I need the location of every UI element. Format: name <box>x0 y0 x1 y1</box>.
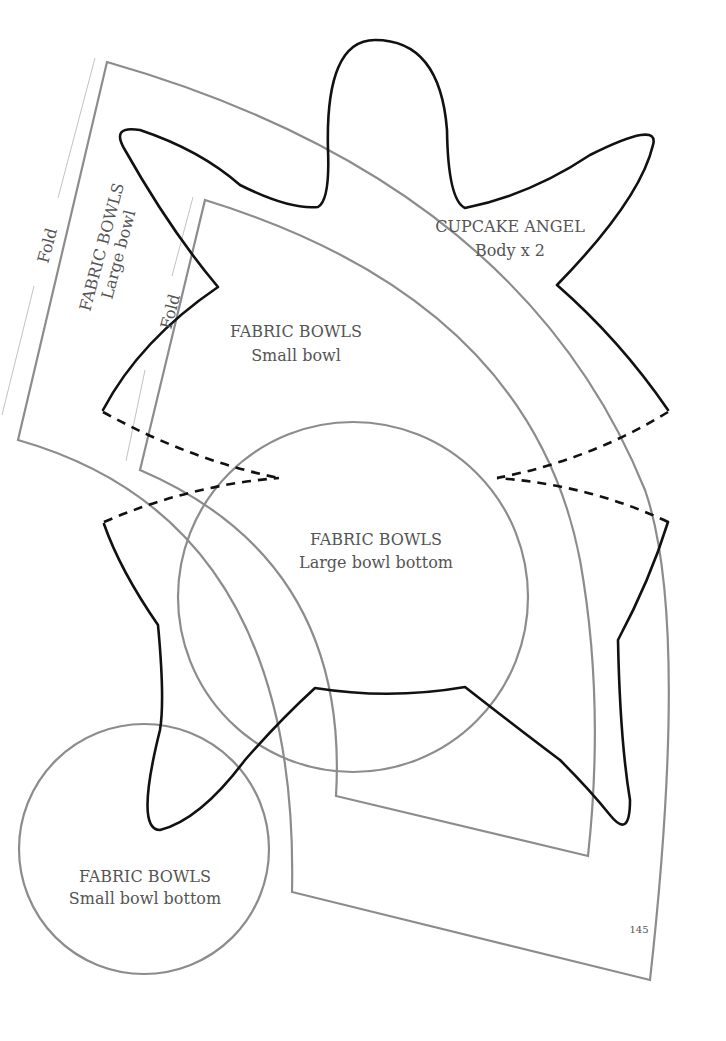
small-bowl-bottom-outline <box>19 724 269 974</box>
large-bowl-fold-line-upper <box>58 58 95 198</box>
cupcake-angel-subtitle: Body x 2 <box>475 241 545 260</box>
angel-dashed-right-upper <box>497 412 668 478</box>
cupcake-angel-title: CUPCAKE ANGEL <box>435 217 585 236</box>
small-bowl-outline <box>140 200 595 856</box>
page-number: 145 <box>629 924 648 935</box>
small-bowl-fold-line-lower <box>126 370 145 461</box>
angel-dashed-left-lower <box>104 478 279 522</box>
small-bowl-bottom-subtitle: Small bowl bottom <box>69 889 221 908</box>
small-bowl-bottom-title: FABRIC BOWLS <box>79 867 211 886</box>
small-bowl-fold-label: Fold <box>157 292 184 331</box>
large-bowl-bottom-title: FABRIC BOWLS <box>310 530 442 549</box>
small-bowl-title: FABRIC BOWLS <box>230 322 362 341</box>
small-bowl-subtitle: Small bowl <box>251 346 341 365</box>
large-bowl-fold-label: Fold <box>34 226 61 265</box>
pattern-sheet: CUPCAKE ANGEL Body x 2 FABRIC BOWLS Smal… <box>0 0 726 1041</box>
large-bowl-bottom-subtitle: Large bowl bottom <box>299 553 453 572</box>
